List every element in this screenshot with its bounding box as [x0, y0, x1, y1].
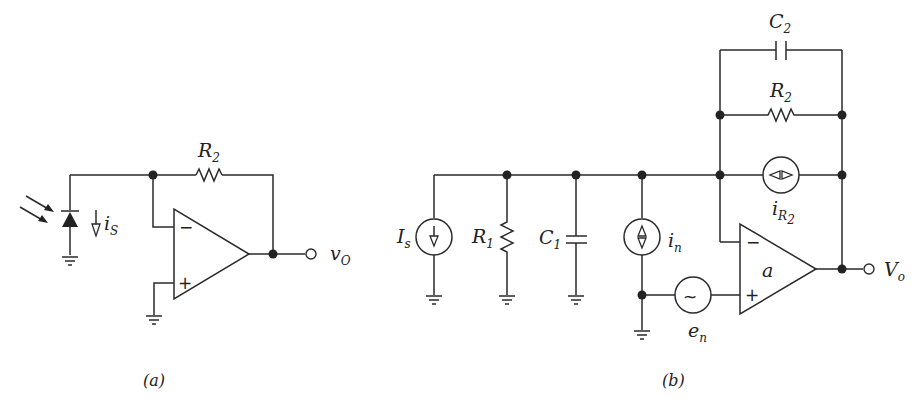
opamp-plus-sign: + [178, 273, 192, 293]
junction-node [838, 171, 847, 180]
caption-b: (b) [662, 371, 685, 390]
ground-icon [426, 296, 442, 304]
output-terminal [306, 249, 316, 259]
resistor-r2-b [720, 109, 842, 121]
label-ir2: iR2 [772, 197, 795, 227]
light-arrows-icon [20, 196, 54, 223]
label-r2-b: R2 [769, 79, 792, 105]
label-vo-a: vO [330, 242, 351, 268]
figure-a-transimpedance-amplifier: R2 iS − + vO (a) [20, 139, 351, 390]
label-is: iS [104, 212, 118, 238]
down-arrow-icon [430, 226, 438, 246]
opamp-gain-label: a [762, 259, 773, 281]
label-in: in [668, 229, 682, 255]
junction-node [269, 250, 278, 259]
opamp-minus-sign: − [179, 217, 193, 237]
ac-source-icon: ~ [683, 287, 697, 307]
ground-icon [499, 296, 515, 304]
output-terminal [864, 264, 874, 274]
current-source-is [416, 219, 452, 255]
circuit-figure: R2 iS − + vO (a) [0, 0, 921, 414]
opamp-plus-sign: + [745, 285, 759, 305]
figure-b-noise-model: Is R1 C1 in ~ en [396, 10, 905, 390]
resistor-r1 [501, 175, 513, 295]
ground-icon [146, 316, 162, 324]
current-arrow-icon [92, 210, 100, 236]
label-c2: C2 [769, 10, 791, 36]
label-is-b: Is [396, 225, 411, 251]
opamp-minus-sign: − [746, 232, 760, 252]
label-c1: C1 [539, 226, 561, 252]
ground-icon [568, 296, 584, 304]
resistor-r2-a [196, 169, 222, 181]
photodiode-icon [62, 212, 78, 227]
ground-icon [62, 257, 78, 265]
label-en: en [688, 319, 707, 345]
caption-a: (a) [143, 371, 165, 390]
wire-noninverting-input [154, 283, 174, 315]
ground-icon [634, 331, 650, 339]
bidirectional-arrow-icon [638, 226, 646, 248]
wire-inverting-input [153, 175, 174, 227]
junction-node [716, 171, 725, 180]
label-vo-b: Vo [884, 258, 905, 284]
junction-node [838, 265, 847, 274]
label-r2-a: R2 [197, 139, 220, 165]
label-r1: R1 [471, 225, 494, 251]
